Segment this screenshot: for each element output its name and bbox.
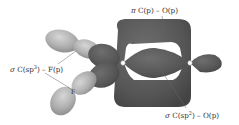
- label-sigma-cf-text1: C(sp: [17, 65, 34, 74]
- orbital-diagram: π C(p) – O(p) σ C(sp3) – F(p) σ C(sp2) –…: [0, 0, 239, 125]
- sigma-co-orbital: [123, 48, 222, 78]
- label-pi-symbol: π: [131, 6, 136, 15]
- oxygen-nucleus: [188, 61, 193, 66]
- label-sigma-co: σ C(sp2) – O(p): [165, 111, 219, 119]
- label-pi-text: C(p) – O(p): [138, 6, 178, 15]
- label-sigma-co-text2: ) – O(p): [192, 111, 219, 120]
- label-pi-co: π C(p) – O(p): [131, 7, 178, 14]
- label-sigma-co-symbol: σ: [165, 111, 170, 120]
- label-sigma-cf-symbol: σ: [10, 65, 15, 74]
- carbon-nucleus: [121, 61, 126, 66]
- label-sigma-cf-text2: ) – F(p): [37, 65, 63, 74]
- label-atom-f: F: [71, 89, 75, 95]
- atom-f-text: F: [71, 88, 75, 95]
- orbital-diagram-svg: [0, 0, 239, 125]
- label-sigma-co-text1: C(sp: [172, 111, 189, 120]
- label-sigma-cf: σ C(sp3) – F(p): [10, 65, 63, 73]
